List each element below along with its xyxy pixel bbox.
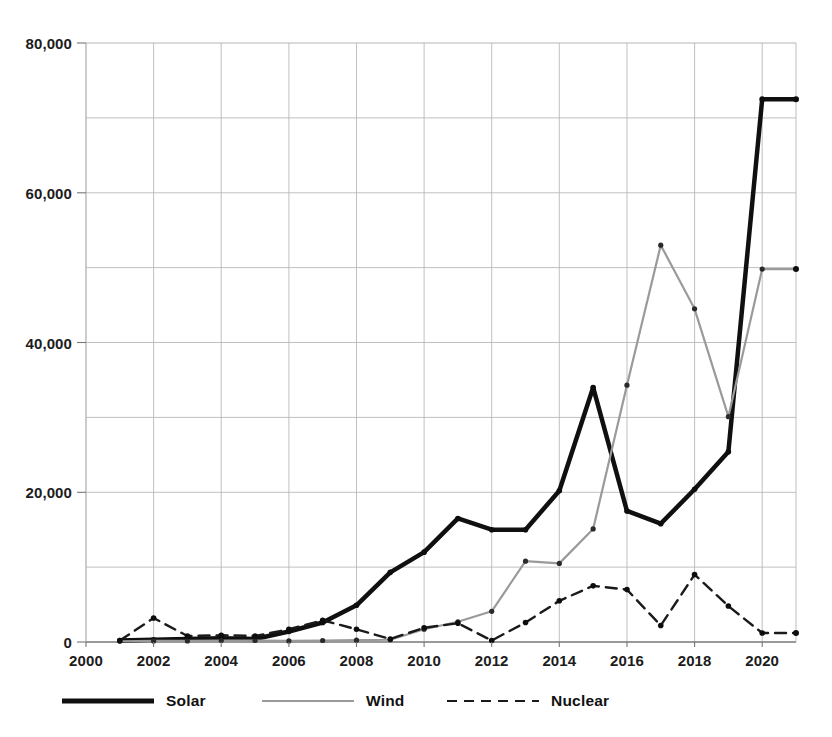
legend-item-nuclear[interactable]: Nuclear bbox=[445, 688, 609, 714]
data-point bbox=[760, 267, 765, 272]
data-point bbox=[658, 623, 664, 629]
data-point bbox=[759, 630, 765, 636]
data-point bbox=[557, 598, 563, 604]
legend-swatch-nuclear bbox=[445, 694, 541, 708]
x-axis-tick-label: 2008 bbox=[322, 652, 392, 669]
data-point bbox=[185, 638, 190, 643]
data-point bbox=[387, 636, 393, 642]
data-point bbox=[591, 526, 596, 531]
data-point bbox=[590, 583, 596, 589]
legend-label: Nuclear bbox=[551, 692, 609, 710]
x-axis-tick-label: 2000 bbox=[51, 652, 121, 669]
x-axis-tick-label: 2020 bbox=[727, 652, 797, 669]
data-point bbox=[354, 603, 360, 609]
data-point bbox=[387, 570, 393, 576]
legend-swatch-solar bbox=[60, 694, 156, 708]
data-point bbox=[793, 266, 799, 272]
data-point bbox=[523, 620, 529, 626]
data-point bbox=[354, 638, 359, 643]
legend-item-solar[interactable]: Solar bbox=[60, 688, 206, 714]
x-axis-tick-label: 2002 bbox=[119, 652, 189, 669]
data-point bbox=[726, 414, 731, 419]
series-solar bbox=[117, 96, 799, 643]
data-point bbox=[421, 549, 427, 555]
series-nuclear bbox=[117, 572, 799, 643]
data-point bbox=[523, 527, 529, 533]
chart-legend: SolarWindNuclear bbox=[60, 688, 760, 718]
x-axis-tick-label: 2012 bbox=[457, 652, 527, 669]
data-point bbox=[624, 508, 630, 514]
data-point bbox=[793, 96, 799, 102]
x-axis-tick-label: 2016 bbox=[592, 652, 662, 669]
x-axis-tick-label: 2004 bbox=[186, 652, 256, 669]
data-point bbox=[354, 626, 360, 632]
data-point bbox=[320, 638, 325, 643]
data-point bbox=[320, 617, 326, 623]
data-point bbox=[117, 638, 123, 644]
data-point bbox=[692, 572, 698, 578]
data-point bbox=[523, 559, 528, 564]
data-point bbox=[489, 609, 494, 614]
data-point bbox=[489, 527, 495, 533]
data-point bbox=[252, 633, 258, 639]
legend-item-wind[interactable]: Wind bbox=[260, 688, 405, 714]
x-axis-tick-label: 2010 bbox=[389, 652, 459, 669]
data-point bbox=[726, 603, 732, 609]
data-point bbox=[455, 620, 461, 626]
series-wind bbox=[117, 243, 799, 644]
data-point bbox=[624, 587, 630, 593]
data-point bbox=[692, 486, 698, 492]
legend-swatch-wind bbox=[260, 694, 356, 708]
data-point bbox=[286, 626, 292, 632]
data-point bbox=[557, 561, 562, 566]
data-point bbox=[557, 488, 563, 494]
data-point bbox=[185, 633, 191, 639]
data-point bbox=[692, 306, 697, 311]
gridlines bbox=[86, 43, 796, 642]
data-point bbox=[151, 615, 157, 621]
data-point bbox=[218, 632, 224, 638]
data-point bbox=[759, 96, 765, 102]
legend-label: Solar bbox=[166, 692, 206, 710]
x-axis-tick-label: 2014 bbox=[524, 652, 594, 669]
data-point bbox=[455, 516, 461, 522]
data-point bbox=[658, 521, 664, 527]
line-chart: 80,00060,00040,00020,0000 20002002200420… bbox=[0, 0, 832, 737]
data-point bbox=[421, 625, 427, 631]
x-axis-tick-label: 2006 bbox=[254, 652, 324, 669]
data-point bbox=[793, 630, 799, 636]
data-point bbox=[658, 243, 663, 248]
data-point bbox=[590, 385, 596, 391]
x-axis-tick-label: 2018 bbox=[660, 652, 730, 669]
plot-area bbox=[0, 0, 832, 737]
legend-label: Wind bbox=[366, 692, 405, 710]
data-point bbox=[726, 449, 732, 455]
data-point bbox=[624, 383, 629, 388]
